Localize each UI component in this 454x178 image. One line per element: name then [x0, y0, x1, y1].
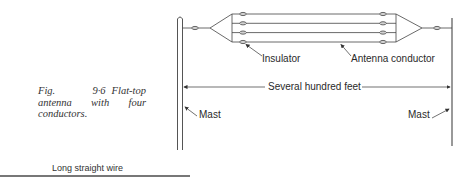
antenna-conductors	[232, 14, 396, 42]
left-mast-label: Mast	[199, 109, 221, 120]
conductor-pointer	[341, 45, 351, 57]
right-mast-label: Mast	[408, 109, 430, 120]
next-figure-label: Long straight wire	[52, 163, 123, 173]
insulator-label: Insulator	[262, 53, 300, 64]
figure-caption: Fig. 9·6Flat-top antenna with four condu…	[38, 85, 146, 120]
span-label: Several hundred feet	[268, 81, 361, 92]
figure-number: Fig. 9·6	[38, 85, 106, 96]
left-lead-wire	[183, 14, 233, 42]
left-mast	[178, 17, 183, 150]
next-figure-wire	[0, 175, 190, 177]
antenna-conductor-label: Antenna conductor	[351, 53, 435, 64]
right-lead-wire	[396, 14, 452, 42]
insulators	[240, 12, 386, 43]
insulator-pointer	[246, 45, 262, 57]
